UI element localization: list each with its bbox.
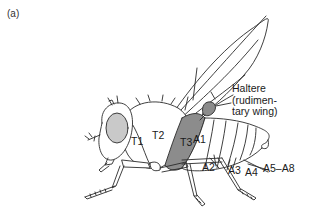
fly-anatomy-figure: (a) (0, 0, 309, 216)
label-t2: T2 (152, 130, 164, 141)
label-t1: T1 (131, 136, 143, 147)
haltere (202, 102, 215, 116)
label-t3: T3 (180, 137, 192, 148)
label-a4: A4 (245, 167, 258, 178)
haltere-label: Haltere (rudimen- tary wing) (232, 83, 278, 118)
haltere-label-line3: tary wing) (232, 106, 278, 118)
label-a2: A2 (202, 162, 215, 173)
label-a5-a8: A5–A8 (263, 163, 295, 174)
label-a1: A1 (193, 134, 206, 145)
compound-eye (106, 113, 128, 143)
haltere-label-line1: Haltere (232, 83, 278, 95)
label-a3: A3 (228, 165, 241, 176)
